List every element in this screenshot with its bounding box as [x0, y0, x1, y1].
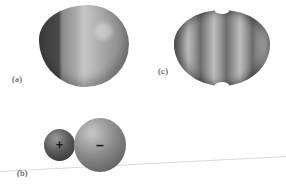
surface-notch-top: [215, 8, 229, 14]
electron-density-surface-c: [174, 10, 270, 86]
plus-icon: +: [56, 138, 63, 152]
minus-icon: –: [96, 137, 104, 153]
baseline-rule: [0, 155, 286, 172]
panel-label-b: (b): [17, 168, 28, 178]
negative-charge-sphere: –: [74, 118, 126, 172]
positive-charge-sphere: +: [44, 129, 75, 161]
electron-density-surface-a: [39, 5, 129, 87]
panel-label-a: (a): [12, 74, 22, 84]
panel-label-c: (c): [158, 66, 168, 76]
surface-notch-bottom: [215, 82, 229, 88]
